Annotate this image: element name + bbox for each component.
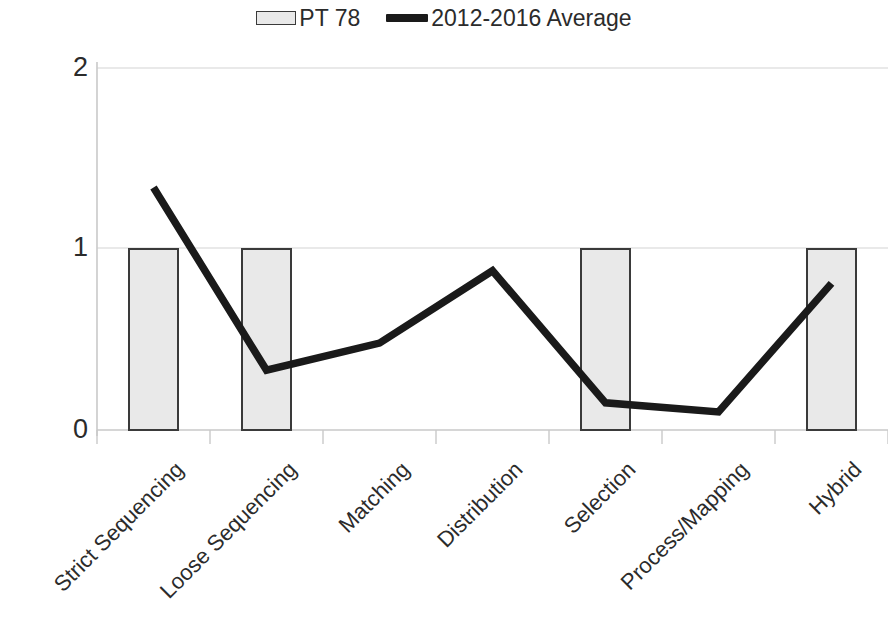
- x-axis-labels: Strict SequencingLoose SequencingMatchin…: [0, 0, 888, 630]
